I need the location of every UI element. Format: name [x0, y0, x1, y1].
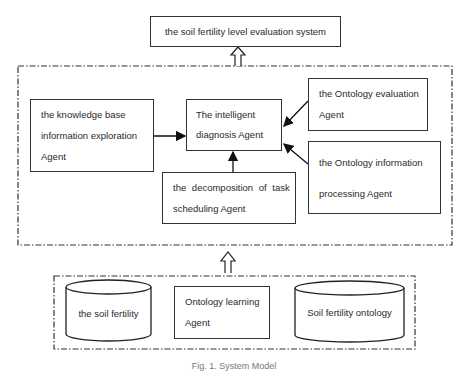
agent-label-line: Ontology learning: [185, 291, 259, 312]
agent-label-line: Agent: [185, 312, 210, 333]
hollow-up-arrow-icon: [221, 252, 235, 273]
hollow-up-arrow-icon: [231, 47, 245, 66]
arrow-evaluation-to-diagnosis: [284, 101, 308, 126]
task-decomposition-scheduling-agent-box: the decomposition of task scheduling Age…: [162, 172, 296, 224]
agent-label-line: the decomposition of task: [173, 177, 290, 198]
arrow-processing-to-diagnosis: [284, 144, 308, 164]
agent-label-line: information exploration: [41, 125, 137, 146]
agent-label-line: Agent: [41, 146, 66, 167]
agent-label-line: scheduling Agent: [173, 198, 245, 219]
agent-label-line: the Ontology information: [319, 152, 423, 173]
soil-fertility-database-label: the soil fertility: [66, 308, 151, 319]
ontology-learning-agent-box: Ontology learning Agent: [174, 286, 270, 339]
system-label: the soil fertility level evaluation syst…: [151, 21, 340, 42]
intelligent-diagnosis-agent-box: The intelligent diagnosis Agent: [186, 99, 282, 151]
agent-label-line: Agent: [319, 104, 344, 125]
agent-label-line: the knowledge base: [41, 104, 126, 125]
soil-fertility-ontology-database-label: Soil fertility ontology: [295, 307, 404, 318]
agent-label-line: diagnosis Agent: [196, 124, 263, 145]
agent-label-line: the Ontology evaluation: [319, 83, 419, 104]
ontology-evaluation-agent-box: the Ontology evaluation Agent: [308, 78, 428, 131]
agent-label-line: The intelligent: [196, 104, 255, 125]
ontology-information-processing-agent-box: the Ontology information processing Agen…: [308, 141, 441, 214]
figure-caption: Fig. 1. System Model: [0, 361, 468, 371]
soil-fertility-evaluation-system-box: the soil fertility level evaluation syst…: [150, 16, 341, 47]
agent-label-line: processing Agent: [319, 183, 392, 204]
knowledge-base-exploration-agent-box: the knowledge base information explorati…: [30, 99, 154, 172]
